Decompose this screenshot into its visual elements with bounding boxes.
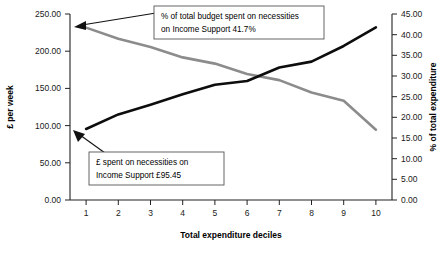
annotation-percent-line-2: on Income Support 41.7%: [161, 25, 256, 34]
y-axis-title-left: £ per week: [5, 85, 15, 129]
x-axis-title: Total expenditure deciles: [180, 230, 282, 240]
x-tick-label-2: 2: [116, 208, 121, 218]
right-tick-label-30: 30.00: [401, 71, 423, 81]
left-tick-label-250: 250.00: [35, 9, 61, 19]
right-axis-labels: 0.00 5.00 10.00 15.00 20.00 25.00 30.00 …: [401, 9, 423, 205]
x-axis-labels: 12345678910: [84, 208, 381, 218]
x-tick-label-4: 4: [180, 208, 185, 218]
annotation-percent-callout: % of total budget spent on necessities o…: [74, 6, 324, 39]
annotation-percent-box: [154, 6, 324, 39]
right-tick-label-40: 40.00: [401, 30, 423, 40]
left-tick-label-200: 200.00: [35, 46, 61, 56]
left-tick-label-0: 0.00: [44, 195, 61, 205]
arrow-head-icon: [74, 21, 86, 30]
annotation-pounds-line-2: Income Support £95.45: [96, 171, 182, 180]
x-axis-ticks: [86, 200, 376, 205]
chart-container: 0.00 50.00 100.00 150.00 200.00 250.00 0…: [0, 0, 445, 257]
arrow-head-icon: [73, 130, 85, 142]
annotation-percent-line-1: % of total budget spent on necessities: [161, 12, 299, 21]
right-axis-ticks: [392, 14, 397, 200]
right-tick-label-10: 10.00: [401, 154, 423, 164]
x-tick-label-7: 7: [277, 208, 282, 218]
right-tick-label-25: 25.00: [401, 92, 423, 102]
annotation-pounds-line-1: £ spent on necessities on: [96, 158, 189, 167]
series-line-percent-of-expenditure: [86, 28, 376, 130]
x-tick-label-3: 3: [148, 208, 153, 218]
x-tick-label-1: 1: [84, 208, 89, 218]
left-tick-label-50: 50.00: [40, 158, 62, 168]
right-tick-label-5: 5.00: [401, 174, 418, 184]
right-tick-label-15: 15.00: [401, 133, 423, 143]
right-tick-label-0: 0.00: [401, 195, 418, 205]
left-tick-label-150: 150.00: [35, 83, 61, 93]
right-tick-label-35: 35.00: [401, 50, 423, 60]
x-tick-label-5: 5: [213, 208, 218, 218]
right-tick-label-45: 45.00: [401, 9, 423, 19]
left-axis-ticks: [65, 14, 70, 200]
annotation-pounds-box: [89, 152, 224, 185]
right-tick-label-20: 20.00: [401, 112, 423, 122]
x-tick-label-8: 8: [309, 208, 314, 218]
left-axis-labels: 0.00 50.00 100.00 150.00 200.00 250.00: [35, 9, 61, 205]
left-tick-label-100: 100.00: [35, 121, 61, 131]
y-axis-title-right: % of total expenditure: [428, 62, 438, 151]
annotation-pounds-callout: £ spent on necessities on Income Support…: [73, 130, 224, 185]
x-tick-label-9: 9: [341, 208, 346, 218]
line-chart: 0.00 50.00 100.00 150.00 200.00 250.00 0…: [0, 0, 445, 257]
x-tick-label-6: 6: [245, 208, 250, 218]
x-tick-label-10: 10: [371, 208, 381, 218]
